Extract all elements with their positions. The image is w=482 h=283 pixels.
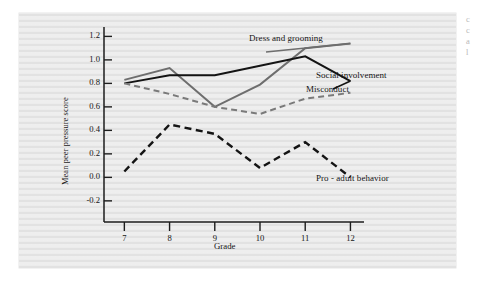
series-label-pro-adult-behavior: Pro - adult behavior	[316, 173, 389, 183]
margin-note-line-3: a	[466, 36, 470, 47]
y-tick-label: 0.2	[76, 148, 100, 158]
series-label-social-involvement: Social involvement	[316, 70, 387, 80]
y-tick-label: 0.6	[76, 101, 100, 111]
y-tick-label: 0.4	[76, 124, 100, 134]
x-tick-label: 8	[158, 233, 182, 243]
y-tick-label: 0.8	[76, 77, 100, 87]
axis-lines	[104, 27, 364, 222]
x-tick-label: 12	[338, 233, 362, 243]
chart-plot-area	[19, 13, 456, 268]
label-leader-lines	[266, 43, 350, 89]
leader-line	[266, 43, 350, 52]
margin-note-line-4: l	[466, 47, 468, 58]
y-axis-ticks	[104, 36, 112, 200]
series-label-dress-and-grooming: Dress and grooming	[249, 33, 323, 43]
x-tick-label: 11	[293, 233, 317, 243]
y-tick-label: 1.2	[76, 30, 100, 40]
y-tick-label: -0.2	[76, 195, 100, 205]
margin-note-line-1: c	[466, 14, 470, 25]
x-tick-label: 7	[112, 233, 136, 243]
y-tick-label: 1.0	[76, 54, 100, 64]
y-tick-label: 0.0	[76, 171, 100, 181]
data-series-lines	[124, 43, 350, 177]
series-label-misconduct: Misconduct	[306, 84, 349, 94]
x-tick-label: 9	[203, 233, 227, 243]
x-tick-label: 10	[248, 233, 272, 243]
series-line-pro-adult-behavior	[124, 125, 350, 178]
margin-note-line-2: c	[466, 25, 470, 36]
x-axis-ticks	[124, 222, 350, 231]
figure-container: Mean peer pressure score Grade Dress and…	[0, 0, 482, 283]
y-axis-title: Mean peer pressure score	[61, 97, 70, 185]
